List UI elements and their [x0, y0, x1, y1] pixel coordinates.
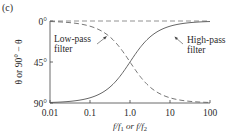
xtick-label-0.01: 0.01: [42, 108, 59, 118]
xtick-label-0.1: 0.1: [84, 108, 96, 118]
highpass-annotation-line2: filter: [187, 45, 206, 55]
ytick-label-0: 0°: [38, 17, 47, 27]
lowpass-annotation-line1: Low-pass: [54, 34, 91, 44]
x-axis-label: f/f1 or f/f2: [113, 121, 147, 132]
xtick-label-100: 100: [203, 108, 218, 118]
panel-label: (c): [2, 2, 13, 14]
phase-response-chart: (c) 0° 45° 90° 0.01 0.1 1.0 10 100 θ or …: [0, 0, 247, 137]
xtick-label-10: 10: [165, 108, 175, 118]
y-axis-label: θ or 90° − θ: [14, 39, 24, 85]
ytick-label-45: 45°: [34, 58, 48, 68]
x-ticks: [50, 100, 210, 103]
lowpass-annotation-line2: filter: [54, 44, 73, 54]
xtick-label-1.0: 1.0: [124, 108, 136, 118]
highpass-annotation-line1: High-pass: [187, 35, 226, 45]
y-ticks: [50, 21, 53, 103]
ytick-label-90: 90°: [34, 99, 48, 109]
